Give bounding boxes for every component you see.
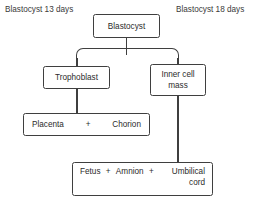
plus-operator: + <box>86 119 91 130</box>
node-inner-cell-mass: Inner cell mass <box>150 64 206 96</box>
node-trophoblast-label: Trophoblast <box>55 72 98 83</box>
node-blastocyst: Blastocyst <box>93 14 160 38</box>
node-umbilical-cord-label: Umbilical cord <box>159 166 205 188</box>
node-amnion-label: Amnion <box>116 166 144 177</box>
node-fetus-label: Fetus <box>80 166 100 177</box>
node-inner-cell-mass-label-line2: mass <box>151 80 205 91</box>
node-placenta-label: Placenta <box>32 119 64 130</box>
node-fetus-amnion-umbilical-cord: Fetus + Amnion + Umbilical cord <box>72 162 213 196</box>
plus-operator-1: + <box>106 166 111 177</box>
node-trophoblast: Trophoblast <box>43 66 110 89</box>
connector-branch-bar <box>76 48 179 60</box>
node-placenta-chorion: Placenta + Chorion <box>23 113 150 136</box>
plus-operator-2: + <box>149 166 154 177</box>
node-blastocyst-label: Blastocyst <box>108 21 145 32</box>
node-chorion-label: Chorion <box>112 119 141 130</box>
label-blastocyst-18-days: Blastocyst 18 days <box>176 5 244 15</box>
connector-trophoblast-to-placenta <box>76 89 78 114</box>
fetus-row: Fetus + Amnion + Umbilical cord <box>80 166 205 188</box>
label-blastocyst-13-days: Blastocyst 13 days <box>5 5 73 15</box>
blastocyst-differentiation-diagram: Blastocyst 13 days Blastocyst 18 days Bl… <box>0 0 264 197</box>
node-inner-cell-mass-label-line1: Inner cell <box>151 69 205 80</box>
connector-inner-cell-mass-to-fetus <box>177 96 179 163</box>
